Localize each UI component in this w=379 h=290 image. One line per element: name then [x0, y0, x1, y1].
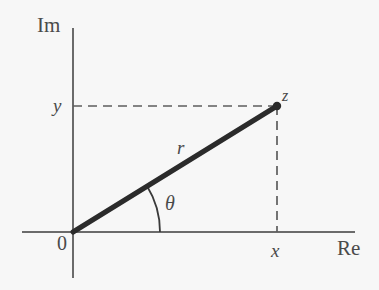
- argument-arc: [147, 186, 160, 232]
- real-axis-label: Re: [337, 238, 360, 259]
- imaginary-axis-label: Im: [37, 15, 60, 36]
- modulus-label: r: [177, 138, 184, 157]
- origin-label: 0: [57, 233, 67, 253]
- modulus-vector: [73, 106, 277, 232]
- argand-diagram-figure: Im Re y x 0 z r θ: [0, 0, 379, 290]
- y-coordinate-label: y: [53, 96, 61, 115]
- point-z-marker: [273, 102, 281, 110]
- argument-label: θ: [165, 193, 175, 213]
- x-coordinate-label: x: [271, 241, 279, 260]
- point-z-label: z: [282, 88, 288, 104]
